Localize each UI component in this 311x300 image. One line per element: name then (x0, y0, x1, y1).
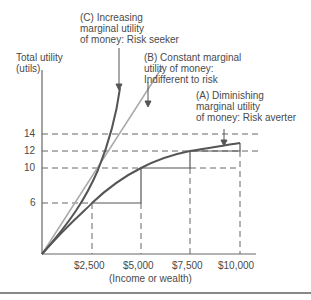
annotation-a-line1: (A) Diminishing (196, 90, 296, 101)
annotation-c-line1: (C) Increasing (80, 12, 179, 23)
annotation-c-line2: marginal utility (80, 23, 179, 34)
annotation-a: (A) Diminishing marginal utility of mone… (196, 90, 296, 123)
annotation-b-line2: utility of money: (144, 63, 241, 74)
annotation-b-line1: (B) Constant marginal (144, 52, 241, 63)
curve-c-increasing (42, 88, 120, 254)
annotation-b-line3: Indifferent to risk (144, 74, 241, 85)
y-axis-label-line2: (utils) (16, 63, 63, 74)
x-axis-label: (Income or wealth) (109, 273, 192, 284)
x-tick-5000: $5,000 (123, 260, 154, 271)
x-tick-7500: $7,500 (172, 260, 203, 271)
annotation-a-line2: marginal utility (196, 101, 296, 112)
annotation-a-line3: of money: Risk averter (196, 112, 296, 123)
y-tick-12: 12 (24, 145, 35, 156)
utility-chart (0, 0, 311, 300)
annotation-c-line3: of money: Risk seeker (80, 34, 179, 45)
annotation-c: (C) Increasing marginal utility of money… (80, 12, 179, 45)
y-tick-10: 10 (24, 162, 35, 173)
y-axis-label-line1: Total utility (16, 52, 63, 63)
y-tick-6: 6 (30, 197, 36, 208)
step-lines (92, 143, 240, 203)
y-tick-14: 14 (24, 128, 35, 139)
annotation-b: (B) Constant marginal utility of money: … (144, 52, 241, 85)
x-tick-2500: $2,500 (74, 260, 105, 271)
x-tick-10000: $10,000 (218, 260, 254, 271)
y-axis-label: Total utility (utils) (16, 52, 63, 74)
